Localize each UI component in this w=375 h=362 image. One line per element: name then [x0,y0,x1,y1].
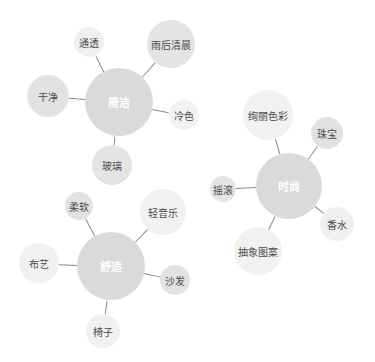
connector-line [95,56,104,73]
satellite-node-label: 玻璃 [102,158,122,173]
satellite-node-shushi-2[interactable]: 布艺 [19,243,59,283]
center-node-shishang[interactable]: 时尚 [256,153,322,219]
connector-line [69,98,85,100]
connector-line [268,216,275,230]
satellite-node-jianjie-1[interactable]: 雨后清晨 [147,20,195,68]
satellite-node-label: 香水 [327,217,347,232]
satellite-node-label: 干净 [38,89,58,104]
satellite-node-label: 冷色 [174,108,194,123]
satellite-node-label: 摇滚 [213,182,233,197]
satellite-node-shishang-1[interactable]: 珠宝 [311,117,343,149]
center-node-label: 简洁 [108,94,130,110]
satellite-node-jianjie-4[interactable]: 玻璃 [92,145,132,185]
connector-line [152,109,169,113]
satellite-node-label: 绚丽色彩 [248,108,288,123]
center-node-label: 舒适 [100,258,122,274]
satellite-node-shushi-1[interactable]: 轻音乐 [140,189,186,235]
center-node-shushi[interactable]: 舒适 [77,232,145,300]
satellite-node-shishang-3[interactable]: 香水 [320,207,354,241]
satellite-node-jianjie-3[interactable]: 冷色 [169,100,199,130]
satellite-node-shushi-0[interactable]: 柔软 [65,192,93,220]
satellite-node-shishang-0[interactable]: 绚丽色彩 [243,90,293,140]
satellite-node-label: 雨后清晨 [151,37,191,52]
satellite-node-shishang-2[interactable]: 摇滚 [210,176,236,202]
connector-line [275,139,281,155]
connector-line [308,146,318,160]
connector-line [85,219,95,237]
satellite-node-shishang-4[interactable]: 抽象图案 [234,227,282,275]
satellite-node-jianjie-2[interactable]: 干净 [27,75,69,117]
satellite-node-shushi-3[interactable]: 沙发 [160,265,190,295]
satellite-node-label: 柔软 [69,199,89,214]
mind-map-canvas: 通透雨后清晨干净冷色玻璃简洁绚丽色彩珠宝摇滚香水抽象图案时尚柔软轻音乐布艺沙发椅… [0,0,375,362]
connector-line [59,264,77,266]
satellite-node-label: 轻音乐 [148,205,178,220]
connector-line [144,273,160,278]
connector-line [236,187,256,189]
satellite-node-label: 布艺 [29,256,49,271]
satellite-node-label: 椅子 [93,324,113,339]
center-node-jianjie[interactable]: 简洁 [85,68,153,136]
satellite-node-jianjie-0[interactable]: 通透 [74,27,104,57]
connector-line [141,62,155,77]
center-node-label: 时尚 [278,178,300,194]
satellite-node-label: 珠宝 [317,126,337,141]
satellite-node-label: 抽象图案 [238,244,278,259]
satellite-node-label: 沙发 [165,273,185,288]
satellite-node-label: 通透 [79,35,99,50]
connector-line [134,229,147,243]
satellite-node-shushi-4[interactable]: 椅子 [86,314,120,348]
connector-line [105,300,108,314]
